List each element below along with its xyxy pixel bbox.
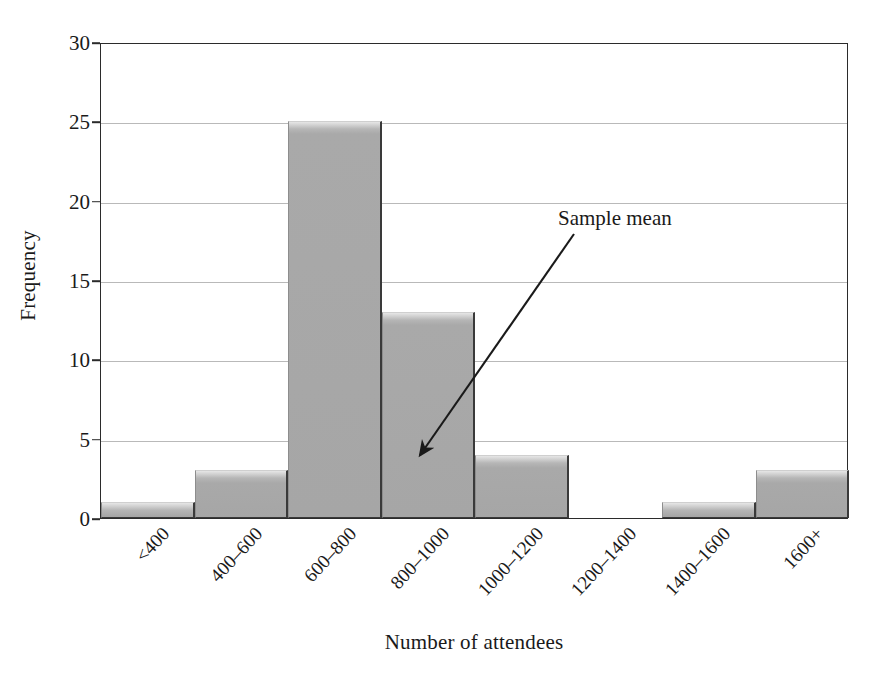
y-axis-title: Frequency [16,186,41,366]
plot-area [100,43,848,519]
x-tick-label-4: 1000–1200 [474,523,548,601]
y-tick-mark-15 [92,280,100,282]
bar-1[interactable] [195,42,289,518]
bar-rect-0 [101,502,195,518]
bar-2[interactable] [288,42,382,518]
x-tick-label-7: 1600+ [779,523,828,574]
y-tick-mark-20 [92,201,100,203]
x-tick-label-0: <400 [131,523,174,567]
x-tick-label-5: 1200–1400 [567,523,641,601]
sample-mean-annotation-label: Sample mean [558,206,672,231]
y-tick-label-5: 5 [44,429,90,450]
histogram-figure: Frequency 051015202530 <400400–600600–80… [0,0,880,677]
y-tick-mark-5 [92,439,100,441]
y-tick-label-15: 15 [44,271,90,292]
bar-rect-7 [756,470,850,518]
bar-4[interactable] [475,42,569,518]
bar-6[interactable] [662,42,756,518]
bar-0[interactable] [101,42,195,518]
x-tick-label-1: 400–600 [206,523,267,587]
y-tick-mark-0 [92,518,100,520]
bar-rect-6 [662,502,756,518]
bar-rect-2 [288,121,382,518]
bar-rect-3 [382,312,476,518]
y-tick-label-30: 30 [44,33,90,54]
y-tick-label-10: 10 [44,350,90,371]
y-tick-mark-25 [92,122,100,124]
y-tick-label-25: 25 [44,112,90,133]
x-axis-title: Number of attendees [100,630,848,655]
bar-rect-1 [195,470,289,518]
y-tick-mark-10 [92,360,100,362]
y-tick-label-20: 20 [44,191,90,212]
x-tick-label-2: 600–800 [300,523,361,587]
bar-series [101,44,847,518]
y-tick-mark-30 [92,42,100,44]
x-tick-label-6: 1400–1600 [661,523,735,601]
x-axis-tick-labels: <400400–600600–800800–10001000–12001200–… [100,523,848,633]
bar-5[interactable] [569,42,663,518]
bar-rect-4 [475,455,569,518]
y-tick-label-0: 0 [44,509,90,530]
bar-7[interactable] [756,42,850,518]
bar-3[interactable] [382,42,476,518]
x-tick-label-3: 800–1000 [387,523,455,594]
